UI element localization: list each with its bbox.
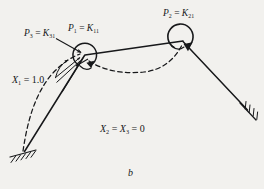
label-p1-sub: 1 [74,28,77,34]
label-x2-x3: X2 = X3 = 0 [100,124,145,135]
figure-caption: b [128,168,133,178]
label-p2-sub: 2 [169,13,172,19]
label-p3-sub: 3 [30,33,33,39]
label-p1-rhs-sub: 11 [93,28,99,34]
label-p2-rhs-sub: 21 [188,13,194,19]
label-x3-sub: 3 [126,128,129,135]
label-x23-value: 0 [140,123,145,134]
label-p2: P2 = K21 [163,9,194,20]
label-x1: X1 = 1.0 [12,75,44,86]
label-p3-rhs-sub: 31 [49,33,55,39]
label-x1-sub: 1 [18,79,21,86]
label-x2-sub: 2 [106,128,109,135]
label-p1: P1 = K11 [68,24,99,35]
label-x1-value: 1.0 [32,74,45,85]
label-p3: P3 = K31 [24,29,55,40]
